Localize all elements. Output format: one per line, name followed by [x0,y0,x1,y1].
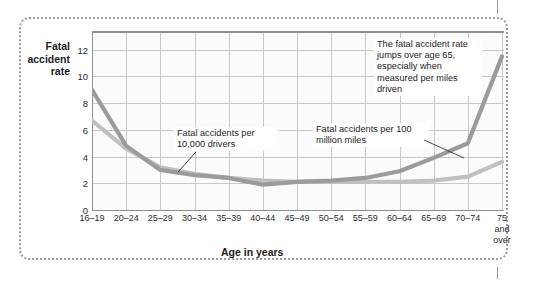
x-tick-label-12: 75 and over [493,213,511,246]
y-tick-label-6: 6 [83,124,88,135]
x-tick-label-5: 40–44 [250,213,275,224]
x-tick-label-2: 25–29 [148,213,173,224]
crop-mark-top [497,0,498,14]
x-tick-label-10: 65–69 [421,213,446,224]
y-tick-label-10: 10 [77,71,88,82]
series-line-1 [92,121,502,182]
y-axis-tick-labels: 024681012 [70,31,88,211]
x-tick-label-1: 20–24 [114,213,139,224]
crop-mark-bottom [497,267,498,279]
x-tick-label-3: 30–34 [182,213,207,224]
y-tick-label-12: 12 [77,44,88,55]
y-tick-label-8: 8 [83,98,88,109]
chart-figure: Fatal accident rate 024681012 16–1920–24… [0,0,542,281]
y-tick-label-4: 4 [83,151,88,162]
annotation-miles-label: Fatal accidents per 100 million miles [313,123,429,147]
x-axis-tick-labels: 16–1920–2425–2930–3435–3940–4445–4950–54… [92,213,504,259]
annotation-miles-note: The fatal accident rate jumps over age 6… [374,38,482,96]
x-axis-title: Age in years [221,246,283,258]
y-tick-label-2: 2 [83,178,88,189]
x-tick-label-6: 45–49 [284,213,309,224]
x-tick-label-11: 70–74 [455,213,480,224]
x-tick-label-8: 55–59 [353,213,378,224]
x-tick-label-9: 60–64 [387,213,412,224]
x-tick-label-7: 50–54 [319,213,344,224]
x-tick-label-4: 35–39 [216,213,241,224]
y-axis-title: Fatal accident rate [22,40,70,78]
annotation-drivers-label: Fatal accidents per 10,000 drivers [174,127,278,151]
x-tick-label-0: 16–19 [79,213,104,224]
